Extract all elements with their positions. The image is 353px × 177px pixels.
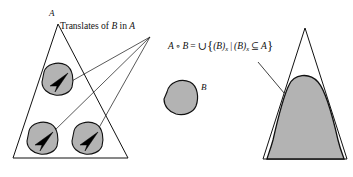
figure-canvas xyxy=(0,0,353,177)
formula-brace-close: } xyxy=(267,39,273,52)
translate-blob-bottom-right xyxy=(72,122,103,154)
formula-union-symbol: ∪ xyxy=(198,41,207,52)
morphological-opening-figure: A Translates of B in A B A∘B=∪{(B)x|(B)x… xyxy=(0,0,353,177)
opening-result-region xyxy=(267,76,344,159)
translate-blob-bottom-left-shape xyxy=(27,122,58,154)
caption-translates-of-B-in-A: Translates of B in A xyxy=(60,22,135,32)
formula-subset-symbol: ⊆ xyxy=(251,42,259,52)
formula-equals: = xyxy=(190,42,195,52)
right-triangle-group xyxy=(263,28,347,159)
formula-lhs-b: B xyxy=(182,42,188,52)
formula-term1-b: (B) xyxy=(213,42,225,52)
formula-operator: ∘ xyxy=(176,42,181,52)
translate-blob-bottom-right-shape xyxy=(72,122,103,154)
leader-line-to-right-blob xyxy=(96,37,150,133)
label-set-A-left: A xyxy=(49,9,55,18)
formula-lhs-a: A xyxy=(168,42,174,52)
structuring-element-B-group xyxy=(164,80,198,114)
opening-formula: A∘B=∪{(B)x|(B)x⊆A} xyxy=(168,39,273,53)
formula-separator: | xyxy=(230,42,232,52)
set-B-shape xyxy=(164,80,198,114)
translate-blob-top xyxy=(42,63,73,95)
formula-term2-subscript: x xyxy=(246,46,249,53)
translate-blob-bottom-left xyxy=(27,122,58,154)
leader-line-to-top-blob xyxy=(70,37,150,82)
translate-blob-top-shape xyxy=(42,63,73,95)
label-set-B: B xyxy=(201,83,207,92)
formula-term1-subscript: x xyxy=(225,46,228,53)
formula-term2-b: (B) xyxy=(234,42,246,52)
caption-text: Translates of B in A xyxy=(60,21,135,31)
